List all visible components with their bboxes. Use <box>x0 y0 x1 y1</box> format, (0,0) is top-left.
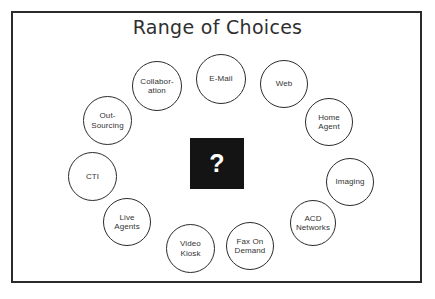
choice-node-label: Imaging <box>333 177 366 187</box>
choice-node-live-agents[interactable]: Live Agents <box>103 198 151 246</box>
choice-node-label: Video Kiosk <box>178 239 203 258</box>
choice-node-label: Fax On Demand <box>233 237 268 256</box>
page-title: Range of Choices <box>0 16 435 38</box>
choice-node-imaging[interactable]: Imaging <box>326 158 374 206</box>
choice-node-label: Collabor- ation <box>138 77 175 96</box>
choice-node-label: CTI <box>84 172 101 182</box>
choice-node-label: ACD Networks <box>294 214 332 233</box>
diagram-canvas: Range of Choices Collabor- ationE-MailWe… <box>0 0 435 299</box>
choice-node-web[interactable]: Web <box>260 60 308 108</box>
choice-node-label: Out- Sourcing <box>89 111 125 130</box>
choice-node-label: E-Mail <box>207 74 234 84</box>
center-question-box: ? <box>190 138 244 189</box>
choice-node-acd-networks[interactable]: ACD Networks <box>290 200 336 246</box>
choice-node-label: Live Agents <box>112 213 142 232</box>
choice-node-fax-on-demand[interactable]: Fax On Demand <box>226 222 274 270</box>
choice-node-label: Web <box>274 79 295 89</box>
choice-node-collaboration[interactable]: Collabor- ation <box>132 61 182 111</box>
question-mark-icon: ? <box>209 151 224 176</box>
choice-node-out-sourcing[interactable]: Out- Sourcing <box>83 96 132 145</box>
choice-node-email[interactable]: E-Mail <box>196 54 246 104</box>
choice-node-label: Home Agent <box>316 113 342 132</box>
choice-node-video-kiosk[interactable]: Video Kiosk <box>166 224 215 273</box>
choice-node-cti[interactable]: CTI <box>68 152 117 201</box>
choice-node-home-agent[interactable]: Home Agent <box>305 98 353 146</box>
